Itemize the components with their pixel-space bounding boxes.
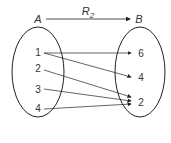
a-element: 4 — [35, 103, 41, 114]
a-element: 3 — [35, 84, 41, 95]
relation-name: R2 — [82, 5, 95, 20]
a-element: 1 — [35, 47, 41, 58]
b-element: 2 — [138, 97, 144, 108]
b-element: 4 — [138, 72, 144, 83]
a-element: 2 — [35, 63, 41, 74]
set-a-label: A — [33, 13, 41, 25]
set-b-label: B — [135, 13, 142, 25]
relation-diagram: A B R2 1 2 3 4 6 4 2 — [0, 0, 171, 143]
relation-arrows — [44, 53, 131, 109]
b-element: 6 — [138, 48, 144, 59]
